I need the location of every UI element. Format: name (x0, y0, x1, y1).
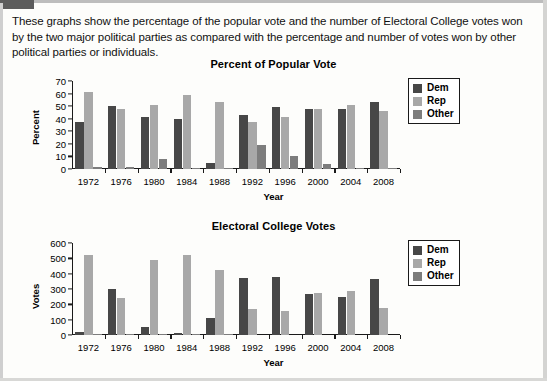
legend-label: Rep (427, 258, 446, 268)
y-axis-tick-label: 0 (38, 164, 66, 175)
bar (305, 294, 313, 335)
bar (370, 279, 378, 335)
bar (108, 106, 116, 169)
x-axis-tick-mark (105, 169, 106, 173)
bar (150, 105, 158, 169)
bar (272, 107, 280, 169)
x-axis-label: Year (0, 191, 547, 202)
y-axis-tick-mark (68, 131, 72, 132)
bar (159, 159, 167, 169)
bar (248, 309, 256, 335)
bar (159, 334, 167, 335)
y-axis-tick-mark (68, 106, 72, 107)
y-axis-tick-mark (68, 258, 72, 259)
legend-swatch-icon (413, 84, 422, 93)
bar (206, 163, 214, 169)
x-axis-tick-label: 1988 (209, 342, 230, 353)
x-axis-tick-mark (170, 335, 171, 339)
intro-paragraph: These graphs show the percentage of the … (12, 14, 532, 61)
y-axis-tick-mark (68, 80, 72, 81)
bar (379, 111, 387, 169)
x-axis-tick-mark (138, 335, 139, 339)
legend-swatch-icon (413, 110, 422, 119)
scan-edge-top (0, 0, 547, 3)
y-axis-tick-mark (68, 334, 72, 335)
x-axis-tick-mark (203, 169, 204, 173)
y-axis-tick-label: 300 (38, 284, 66, 295)
chart-percent-of-popular-vote: Percent of Popular Vote Percent010203040… (0, 58, 547, 213)
chart-legend: DemRepOther (408, 240, 460, 286)
legend-item: Rep (413, 96, 454, 106)
legend-item: Rep (413, 258, 454, 268)
y-axis-tick-label: 600 (38, 238, 66, 249)
x-axis-tick-label: 1988 (209, 176, 230, 187)
x-axis-tick-label: 1976 (111, 342, 132, 353)
bar (141, 117, 149, 169)
bar (192, 334, 200, 335)
bar (93, 334, 101, 335)
bar (75, 122, 83, 169)
bar (224, 334, 232, 335)
x-axis-tick-label: 2000 (307, 176, 328, 187)
bar (215, 270, 223, 335)
bar (75, 332, 83, 335)
y-axis-tick-mark (68, 143, 72, 144)
legend-swatch-icon (413, 97, 422, 106)
x-axis-tick-label: 1972 (78, 176, 99, 187)
x-axis-tick-label: 1976 (111, 176, 132, 187)
y-axis-tick-label: 50 (38, 101, 66, 112)
y-axis-tick-label: 200 (38, 299, 66, 310)
bar (347, 105, 355, 169)
x-axis-tick-label: 1984 (176, 342, 197, 353)
legend-label: Dem (427, 245, 449, 255)
bar (215, 102, 223, 169)
x-axis-tick-mark (105, 335, 106, 339)
bar (84, 92, 92, 169)
x-axis-tick-mark (236, 335, 237, 339)
bar (183, 95, 191, 169)
legend-label: Dem (427, 83, 449, 93)
y-axis-tick-mark (68, 242, 72, 243)
bar (108, 289, 116, 335)
y-axis-tick-label: 100 (38, 314, 66, 325)
bar (290, 156, 298, 169)
bar (356, 168, 364, 169)
x-axis-tick-label: 1980 (143, 342, 164, 353)
y-axis-tick-mark (68, 304, 72, 305)
bar (379, 308, 387, 335)
bar (117, 109, 125, 169)
y-axis-tick-mark (68, 168, 72, 169)
y-axis-tick-label: 0 (38, 330, 66, 341)
legend-label: Rep (427, 96, 446, 106)
x-axis-tick-mark (334, 169, 335, 173)
legend-swatch-icon (413, 272, 422, 281)
x-axis-tick-mark (302, 335, 303, 339)
x-axis-tick-mark (203, 335, 204, 339)
x-axis-tick-label: 1992 (242, 342, 263, 353)
x-axis-tick-label: 1980 (143, 176, 164, 187)
x-axis-tick-label: 2008 (373, 176, 394, 187)
x-axis-tick-label: 2000 (307, 342, 328, 353)
bar (183, 255, 191, 336)
x-axis-tick-mark (400, 169, 401, 173)
y-axis-tick-mark (68, 156, 72, 157)
bar (338, 297, 346, 335)
legend-item: Other (413, 109, 454, 119)
legend-label: Other (427, 271, 454, 281)
y-axis-tick-mark (68, 118, 72, 119)
x-axis-tick-mark (269, 335, 270, 339)
bar (174, 333, 182, 335)
bar (224, 168, 232, 169)
bar (93, 167, 101, 169)
y-axis-tick-label: 70 (38, 76, 66, 87)
x-axis-tick-mark (334, 335, 335, 339)
chart-title: Percent of Popular Vote (0, 58, 547, 70)
bar (338, 109, 346, 169)
chart-legend: DemRepOther (408, 78, 460, 124)
x-axis-tick-label: 1984 (176, 176, 197, 187)
x-axis-tick-mark (367, 335, 368, 339)
legend-swatch-icon (413, 246, 422, 255)
y-axis-tick-label: 30 (38, 126, 66, 137)
x-axis-tick-label: 1996 (275, 176, 296, 187)
x-axis-tick-label: 1972 (78, 342, 99, 353)
